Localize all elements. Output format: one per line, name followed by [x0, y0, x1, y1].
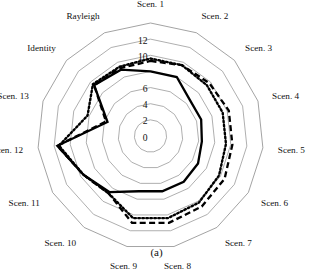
- axis-label-scen-3: Scen. 3: [245, 43, 272, 53]
- axis-label-scen-1: Scen. 1: [137, 0, 164, 9]
- radial-tick-0: 0: [143, 132, 148, 143]
- radar-chart-figure: 02461012 Scen. 1Scen. 2Scen. 3Scen. 4Sce…: [0, 0, 313, 279]
- radar-chart-svg: 02461012 Scen. 1Scen. 2Scen. 3Scen. 4Sce…: [0, 0, 313, 279]
- axis-label-rayleigh: Rayleigh: [66, 11, 100, 21]
- grid-ring-2: [134, 120, 166, 152]
- axis-label-scen-11: Scen. 11: [9, 198, 41, 208]
- figure-caption: (a): [0, 246, 313, 258]
- axis-label-scen-13: Scen. 13: [0, 91, 29, 101]
- radar-grid: [38, 23, 263, 247]
- grid-ring-14: [38, 23, 263, 247]
- grid-ring-12: [54, 39, 247, 231]
- radial-tick-labels: 02461012: [138, 35, 148, 143]
- radial-tick-4: 4: [143, 99, 148, 110]
- axis-label-scen-12: Scen. 12: [0, 145, 24, 155]
- axis-label-scen-4: Scen. 4: [272, 91, 299, 101]
- axis-label-identity: Identity: [27, 43, 56, 53]
- axis-category-labels: Scen. 1Scen. 2Scen. 3Scen. 4Scen. 5Scen.…: [0, 0, 305, 271]
- axis-label-scen-9: Scen. 9: [110, 261, 137, 271]
- radial-tick-12: 12: [138, 35, 148, 46]
- grid-ring-6: [102, 88, 198, 184]
- axis-label-scen-5: Scen. 5: [278, 145, 305, 155]
- radial-tick-6: 6: [143, 83, 148, 94]
- axis-label-scen-6: Scen. 6: [261, 198, 288, 208]
- radial-tick-10: 10: [138, 51, 148, 62]
- radial-tick-2: 2: [143, 115, 148, 126]
- axis-label-scen-2: Scen. 2: [201, 11, 228, 21]
- axis-label-scen-8: Scen. 8: [164, 261, 191, 271]
- grid-ring-4: [118, 104, 182, 168]
- grid-ring-8: [86, 71, 214, 199]
